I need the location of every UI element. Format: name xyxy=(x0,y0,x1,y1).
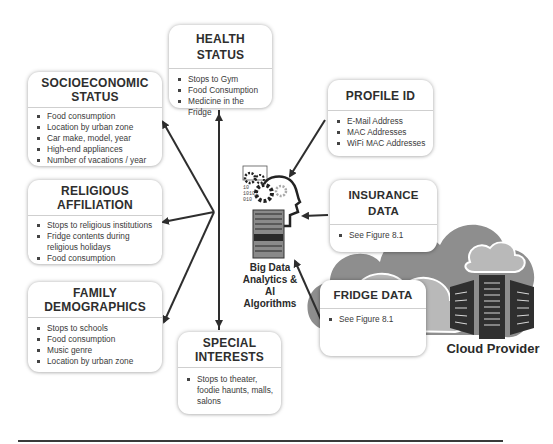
religious-affiliation-title: RELIGIOUS AFFILIATION xyxy=(28,180,162,216)
special-interests-box: SPECIAL INTERESTS Stops to theater, food… xyxy=(178,332,281,414)
religious-title-line2: AFFILIATION xyxy=(32,198,158,212)
list-item: WiFi MAC Addresses xyxy=(336,138,427,149)
fridge-data-list: See Figure 8.1 xyxy=(320,309,426,331)
insurance-data-box: INSURANCE DATA See Figure 8.1 xyxy=(330,180,437,252)
central-label-line3: AI Algorithms xyxy=(240,286,300,310)
insurance-data-title: INSURANCE DATA xyxy=(330,180,437,225)
family-title-line1: FAMILY xyxy=(32,286,158,300)
religious-affiliation-box: RELIGIOUS AFFILIATION Stops to religious… xyxy=(28,180,162,264)
family-demographics-title: FAMILY DEMOGRAPHICS xyxy=(28,282,162,318)
list-item: Music genre xyxy=(36,345,156,356)
list-item: E-Mail Address xyxy=(336,116,427,127)
list-item: Stops to Gym xyxy=(177,74,266,85)
central-label-line1: Big Data xyxy=(240,262,300,274)
socioeconomic-status-box: SOCIOECONOMIC STATUS Food consumption Lo… xyxy=(28,72,162,166)
list-item: Number of vacations / year xyxy=(36,155,156,166)
fridge-data-title: FRIDGE DATA xyxy=(320,280,426,309)
list-item: High-end appliances xyxy=(36,144,156,155)
svg-text:010: 010 xyxy=(243,197,252,203)
list-item: Food Consumption xyxy=(177,85,266,96)
list-item: Stops to religious institutions xyxy=(36,220,156,231)
insurance-data-list: See Figure 8.1 xyxy=(330,225,437,247)
list-item: Food consumption xyxy=(36,334,156,345)
religious-list: Stops to religious institutions Fridge c… xyxy=(28,216,162,270)
central-label-line2: Analytics & xyxy=(240,274,300,286)
special-title-line2: INTERESTS xyxy=(182,350,277,364)
fridge-data-box: FRIDGE DATA See Figure 8.1 xyxy=(320,280,426,356)
special-list: Stops to theater, foodie haunts, malls, … xyxy=(178,368,281,413)
caption-divider xyxy=(18,440,503,442)
socioeconomic-title-line1: SOCIOECONOMIC xyxy=(32,76,158,90)
family-title-line2: DEMOGRAPHICS xyxy=(32,300,158,314)
profile-id-box: PROFILE ID E-Mail Address MAC Addresses … xyxy=(328,80,433,156)
health-status-box: HEALTH STATUS Stops to Gym Food Consumpt… xyxy=(169,25,272,108)
health-status-list: Stops to Gym Food Consumption Medicine i… xyxy=(169,69,272,124)
profile-id-list: E-Mail Address MAC Addresses WiFi MAC Ad… xyxy=(328,111,433,155)
special-interests-title: SPECIAL INTERESTS xyxy=(178,332,281,368)
socioeconomic-list: Food consumption Location by urban zone … xyxy=(28,108,162,172)
list-item: Medicine in the Fridge xyxy=(177,96,266,118)
list-item: Stops to theater, foodie haunts, malls, … xyxy=(186,374,275,407)
family-demographics-box: FAMILY DEMOGRAPHICS Stops to schools Foo… xyxy=(28,282,162,372)
central-label: Big Data Analytics & AI Algorithms xyxy=(240,262,300,310)
list-item: Food consumption xyxy=(36,253,156,264)
list-item: See Figure 8.1 xyxy=(328,314,420,325)
health-status-title: HEALTH STATUS xyxy=(169,25,272,69)
list-item: See Figure 8.1 xyxy=(338,230,431,241)
socioeconomic-title-line2: STATUS xyxy=(32,90,158,104)
special-title-line1: SPECIAL xyxy=(182,336,277,350)
family-list: Stops to schools Food consumption Music … xyxy=(28,318,162,373)
religious-title-line1: RELIGIOUS xyxy=(32,184,158,198)
list-item: Location by urban zone xyxy=(36,356,156,367)
socioeconomic-status-title: SOCIOECONOMIC STATUS xyxy=(28,72,162,108)
profile-id-title: PROFILE ID xyxy=(328,80,433,111)
list-item: MAC Addresses xyxy=(336,127,427,138)
list-item: Car make, model, year xyxy=(36,133,156,144)
big-data-analytics-icon: 10 10101 010 xyxy=(243,166,300,258)
server-rack-icon xyxy=(450,275,534,339)
list-item: Location by urban zone xyxy=(36,122,156,133)
cloud-provider-label: Cloud Provider xyxy=(440,341,546,356)
list-item: Food consumption xyxy=(36,111,156,122)
list-item: Fridge contents during religious holiday… xyxy=(36,231,156,253)
list-item: Stops to schools xyxy=(36,323,156,334)
